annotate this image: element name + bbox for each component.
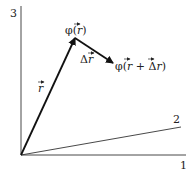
phi-r-suffix: )	[82, 24, 86, 37]
delta-r-label: Δr	[80, 53, 94, 66]
delta-symbol: Δ	[80, 53, 88, 66]
svg-text:Δr: Δr	[80, 53, 94, 66]
phi-r-label: φ(r)	[65, 24, 87, 37]
delta-r-var: r	[88, 53, 94, 66]
axis-2-label: 2	[173, 113, 180, 126]
vector-r-label: r	[38, 82, 44, 95]
svg-text:φ(r): φ(r)	[65, 24, 87, 37]
axis-1-label: 1	[180, 159, 187, 172]
vector-diagram: 3 1 2 r φ(r) Δr φ(r + Δr)	[0, 0, 194, 175]
svg-text:φ(r + Δr): φ(r + Δr)	[115, 60, 166, 73]
phi-r-plus-delta-r-label: φ(r + Δr)	[115, 59, 166, 73]
position-vector-r	[21, 38, 75, 155]
axis-3-label: 3	[10, 7, 17, 20]
svg-text:r: r	[38, 82, 44, 95]
axis-2-line	[21, 127, 181, 155]
phi-r-prefix: φ(	[65, 24, 77, 37]
